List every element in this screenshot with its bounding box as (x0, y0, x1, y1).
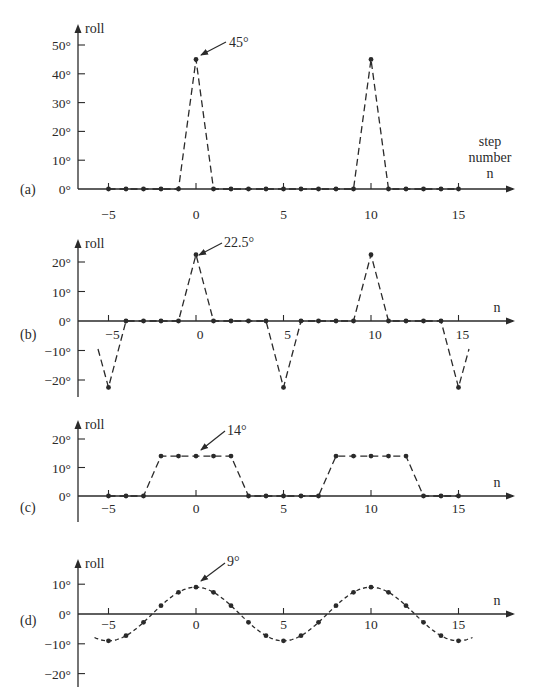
y-tick-label: 40° (52, 67, 71, 82)
x-tick-label: 0 (193, 501, 200, 516)
x-tick-label: 10 (364, 501, 378, 516)
data-point (124, 319, 129, 324)
data-point (421, 187, 426, 192)
y-tick-label: 20° (52, 255, 71, 270)
data-point (369, 585, 374, 590)
data-point (351, 590, 356, 595)
data-point (176, 319, 181, 324)
y-axis-title: roll (85, 556, 105, 571)
data-point (439, 494, 444, 499)
data-point (456, 494, 461, 499)
data-point (176, 590, 181, 595)
y-tick-label: 10° (52, 461, 71, 476)
data-point (159, 187, 164, 192)
data-point (246, 494, 251, 499)
y-tick-label: 30° (52, 96, 71, 111)
data-point (159, 454, 164, 459)
data-point (421, 319, 426, 324)
data-point (211, 187, 216, 192)
annotation-arrow-icon (201, 42, 226, 55)
data-point (281, 638, 286, 643)
data-point (141, 319, 146, 324)
data-point (106, 638, 111, 643)
data-point (386, 454, 391, 459)
data-point (211, 590, 216, 595)
data-point (141, 187, 146, 192)
data-point (439, 633, 444, 638)
data-point (159, 319, 164, 324)
chart-canvas: roll0°10°20°30°40°50°−5051015(a)stepnumb… (0, 0, 537, 698)
data-point (316, 620, 321, 625)
data-point (246, 319, 251, 324)
panel-label: (b) (20, 327, 37, 343)
x-tick-label: 5 (280, 617, 287, 632)
data-point (106, 187, 111, 192)
y-axis-arrow-icon (75, 24, 82, 33)
y-tick-label: 10° (52, 577, 71, 592)
x-axis-title: n (487, 166, 494, 181)
x-axis-title: step (479, 134, 502, 149)
data-point (229, 319, 234, 324)
data-point (194, 454, 199, 459)
y-tick-label: −20° (44, 373, 71, 388)
data-point (159, 603, 164, 608)
data-point (264, 633, 269, 638)
x-tick-label: 15 (452, 617, 466, 632)
x-tick-label: −5 (105, 327, 120, 342)
y-tick-label: −10° (44, 637, 71, 652)
data-point (299, 319, 304, 324)
data-point (141, 620, 146, 625)
x-tick-label: 5 (280, 501, 287, 516)
data-point (351, 187, 356, 192)
data-point (229, 454, 234, 459)
x-axis-arrow-icon (506, 611, 515, 618)
dashed-series-line (109, 59, 459, 189)
x-tick-label: 0 (193, 617, 200, 632)
data-point (106, 494, 111, 499)
x-tick-label: −5 (101, 617, 116, 632)
y-tick-label: 20° (52, 432, 71, 447)
data-point (421, 494, 426, 499)
data-point (229, 187, 234, 192)
annotation-arrow-icon (199, 243, 222, 255)
data-point (264, 319, 269, 324)
data-point (351, 454, 356, 459)
data-point (299, 187, 304, 192)
panel-label: (d) (20, 613, 37, 629)
x-axis-title: n (494, 475, 501, 490)
x-tick-label: 15 (456, 327, 470, 342)
peak-annotation: 14° (227, 423, 247, 438)
data-point (141, 494, 146, 499)
data-point (211, 454, 216, 459)
y-tick-label: 10° (52, 285, 71, 300)
data-point (124, 187, 129, 192)
data-point (334, 319, 339, 324)
x-tick-label: 10 (364, 617, 378, 632)
data-point (316, 319, 321, 324)
panel-c: roll0°10°20°−5051015(c)n14° (20, 417, 515, 522)
data-point (106, 385, 111, 390)
x-axis-arrow-icon (506, 493, 515, 500)
data-point (404, 319, 409, 324)
y-tick-label: 50° (52, 38, 71, 53)
data-point (404, 454, 409, 459)
data-point (456, 385, 461, 390)
data-point (299, 494, 304, 499)
data-point (264, 187, 269, 192)
x-tick-label: 10 (368, 327, 382, 342)
x-tick-label: 5 (284, 327, 291, 342)
x-axis-arrow-icon (506, 318, 515, 325)
data-point (124, 633, 129, 638)
data-point (386, 590, 391, 595)
x-tick-label: 0 (193, 207, 200, 222)
panel-label: (a) (20, 182, 36, 198)
data-point (316, 187, 321, 192)
peak-annotation: 22.5° (224, 235, 254, 250)
data-point (456, 638, 461, 643)
data-point (386, 187, 391, 192)
x-tick-label: 5 (280, 207, 287, 222)
data-point (334, 187, 339, 192)
x-axis-title: number (469, 150, 512, 165)
data-point (456, 187, 461, 192)
data-point (404, 187, 409, 192)
